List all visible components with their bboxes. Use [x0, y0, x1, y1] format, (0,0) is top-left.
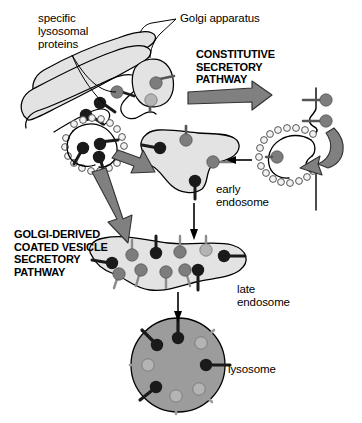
receptor-dark-le-4 — [192, 264, 204, 276]
receptor-dark-golgi-1 — [94, 97, 106, 109]
receptor-gray-le-3 — [160, 266, 172, 278]
receptor-dark-le-1 — [106, 257, 118, 269]
cargo-receptor-light — [145, 94, 157, 106]
receptor-light-lys-3 — [193, 383, 205, 395]
receptor-light-le-1 — [200, 244, 212, 256]
receptor-surface-1 — [320, 94, 332, 106]
lysosome — [130, 318, 230, 414]
cargo-receptor-gray — [150, 77, 162, 89]
receptor-dark-lys-1 — [151, 339, 163, 351]
arrow-endocytosis-curved — [300, 128, 343, 175]
receptor-dark-lys-4 — [150, 381, 162, 393]
plasma-membrane — [303, 88, 332, 210]
label-early-endosome: early endosome — [216, 183, 269, 209]
receptor-dark-lys-3 — [200, 359, 212, 371]
receptor-gray-le-4 — [179, 264, 191, 276]
receptor-dark-ee-1 — [154, 142, 166, 154]
label-specific-lysosomal-proteins: specific lysosomal proteins — [38, 12, 88, 52]
receptor-gray-le-5 — [174, 246, 186, 258]
receptor-light-lys-1 — [195, 337, 207, 349]
late-endosome — [90, 236, 246, 290]
golgi-coated-vesicle — [62, 115, 128, 175]
arrow-early-to-late-endosome — [190, 203, 198, 240]
receptor-light-lys-2 — [142, 359, 154, 371]
diagram-canvas: specific lysosomal proteins Golgi appara… — [0, 0, 362, 423]
label-late-endosome: late endosome — [237, 283, 290, 309]
leader-golgi-1 — [140, 19, 176, 33]
receptor-dark-cv-1 — [94, 138, 106, 150]
receptor-dark-lys-2 — [172, 332, 184, 344]
receptor-gray-ee-2 — [207, 156, 219, 168]
plasma-membrane-coated-pit — [256, 125, 317, 187]
receptor-gray-le-6 — [113, 268, 125, 280]
receptor-gray-le-1 — [126, 249, 138, 261]
receptor-surface-2 — [320, 115, 332, 127]
label-golgi-derived-coated-vesicle-secretory-pathway: GOLGI-DERIVED COATED VESICLE SECRETORY P… — [14, 228, 108, 278]
label-constitutive-secretory-pathway: CONSTITUTIVE SECRETORY PATHWAY — [196, 48, 275, 86]
receptor-gray-le-2 — [135, 264, 147, 276]
receptor-dark-cv-3 — [93, 151, 105, 163]
pathway-diagram-svg — [0, 0, 362, 423]
label-golgi-apparatus: Golgi apparatus — [180, 12, 260, 25]
receptor-light-lys-4 — [170, 390, 182, 402]
label-lysosome: lysosome — [228, 363, 276, 376]
clathrin-coat-pit — [256, 125, 317, 187]
receptor-dark-le-2 — [150, 247, 162, 259]
receptor-gray-ee-1 — [180, 134, 192, 146]
golgi-transport-vesicle — [132, 59, 174, 112]
receptor-dark-ee-2 — [189, 175, 201, 187]
receptor-dark-le-3 — [218, 250, 230, 262]
receptor-dark-cv-2 — [77, 142, 89, 154]
